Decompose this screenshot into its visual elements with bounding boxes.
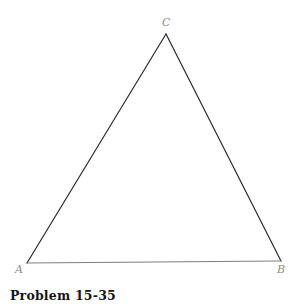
vertex-label-c: C — [162, 17, 170, 28]
figure-caption: Problem 15-35 — [10, 288, 116, 303]
figure-page: C A B Problem 15-35 — [0, 0, 302, 308]
triangle-figure — [0, 0, 302, 308]
vertex-label-a: A — [15, 264, 23, 275]
vertex-label-b: B — [277, 264, 285, 275]
